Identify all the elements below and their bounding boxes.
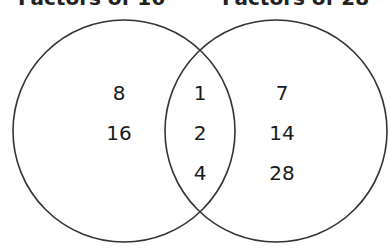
set-b-value: 14 bbox=[269, 123, 294, 143]
intersection-value: 1 bbox=[194, 83, 207, 103]
set-b-value: 7 bbox=[276, 83, 289, 103]
set-a-value: 16 bbox=[106, 123, 131, 143]
intersection-value: 4 bbox=[194, 163, 207, 183]
intersection-value: 2 bbox=[194, 123, 207, 143]
set-b-value: 28 bbox=[269, 163, 294, 183]
set-a-value: 8 bbox=[113, 83, 126, 103]
